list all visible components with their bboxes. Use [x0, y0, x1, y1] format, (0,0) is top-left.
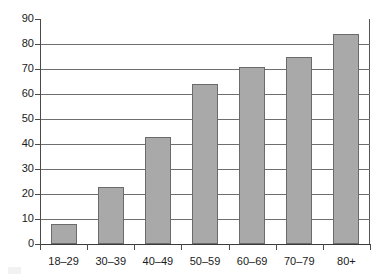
x-tick-mark — [276, 244, 277, 250]
corner-artifact-mark — [8, 267, 21, 274]
x-tick-mark — [40, 244, 41, 250]
y-tick-label: 10 — [4, 213, 34, 224]
x-tick-mark — [134, 244, 135, 250]
x-tick-mark — [370, 244, 371, 250]
x-tick-label: 60–69 — [229, 255, 276, 267]
y-tick-label: 0 — [4, 238, 34, 249]
x-tick-mark — [323, 244, 324, 250]
x-tick-label: 40–49 — [134, 255, 181, 267]
gridline-80 — [40, 44, 370, 45]
x-tick-mark — [87, 244, 88, 250]
x-tick-label: 70–79 — [276, 255, 323, 267]
y-tick-mark-70 — [35, 69, 40, 70]
y-axis-tick-labels: 0102030405060708090 — [0, 0, 34, 278]
x-tick-mark — [181, 244, 182, 250]
y-tick-mark-20 — [35, 194, 40, 195]
y-axis-line — [40, 19, 41, 245]
bar-40–49 — [145, 137, 171, 245]
bar-18–29 — [51, 224, 77, 244]
y-tick-label: 70 — [4, 63, 34, 74]
y-tick-mark-10 — [35, 219, 40, 220]
y-tick-label: 40 — [4, 138, 34, 149]
bar-70–79 — [286, 57, 312, 245]
gridline-0 — [40, 244, 370, 245]
bar-chart-figure: 0102030405060708090 18–2930–3940–4950–59… — [0, 0, 388, 278]
bar-30–39 — [98, 187, 124, 245]
y-tick-label: 60 — [4, 88, 34, 99]
y-tick-label: 30 — [4, 163, 34, 174]
y-tick-mark-90 — [35, 19, 40, 20]
y-tick-mark-40 — [35, 144, 40, 145]
gridline-70 — [40, 69, 370, 70]
x-tick-label: 50–59 — [181, 255, 228, 267]
y-tick-label: 50 — [4, 113, 34, 124]
y-tick-mark-80 — [35, 44, 40, 45]
x-tick-label: 80+ — [323, 255, 370, 267]
y-tick-label: 90 — [4, 13, 34, 24]
x-tick-label: 18–29 — [40, 255, 87, 267]
x-tick-mark — [229, 244, 230, 250]
y-tick-mark-60 — [35, 94, 40, 95]
y-tick-label: 80 — [4, 38, 34, 49]
bar-50–59 — [192, 84, 218, 244]
bar-60–69 — [239, 67, 265, 245]
y-tick-mark-50 — [35, 119, 40, 120]
x-tick-label: 30–39 — [87, 255, 134, 267]
y-tick-mark-30 — [35, 169, 40, 170]
y-tick-label: 20 — [4, 188, 34, 199]
bar-80+ — [333, 34, 359, 244]
